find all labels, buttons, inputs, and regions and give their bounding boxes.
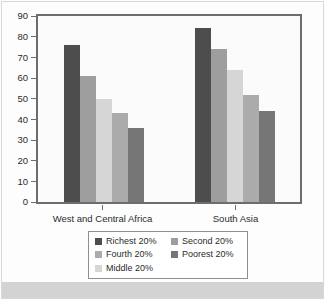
y-axis-tick-label: 20 (17, 156, 31, 166)
bar (96, 99, 112, 202)
x-axis-category-label: South Asia (213, 213, 258, 224)
y-axis-tick: 90 (17, 10, 36, 22)
y-axis-tick: 30 (17, 134, 36, 146)
bar (243, 95, 259, 202)
legend-grid: Richest 20%Second 20%Fourth 20%Poorest 2… (95, 236, 241, 274)
y-axis-tick-label: 60 (17, 73, 31, 83)
y-axis-tick: 0 (23, 196, 36, 208)
bars-layer (38, 16, 300, 202)
x-axis-tick-mark (102, 205, 103, 210)
legend-swatch (95, 251, 102, 258)
legend-item[interactable]: Richest 20% (95, 236, 165, 247)
y-axis-tick: 70 (17, 51, 36, 63)
bar (227, 70, 243, 202)
y-axis-tick: 60 (17, 72, 36, 84)
legend-swatch (95, 238, 102, 245)
x-axis-category-label: West and Central Africa (53, 213, 153, 224)
legend-swatch (171, 251, 178, 258)
y-axis: 9080706050403020100 (0, 14, 36, 204)
bar-group (195, 16, 275, 202)
chart-legend: Richest 20%Second 20%Fourth 20%Poorest 2… (88, 231, 248, 279)
legend-swatch (171, 238, 178, 245)
footer-band (2, 282, 323, 298)
legend-item[interactable]: Middle 20% (95, 263, 165, 274)
y-axis-tick-label: 0 (23, 197, 31, 207)
legend-item[interactable]: Poorest 20% (171, 249, 241, 260)
y-axis-tick: 20 (17, 155, 36, 167)
x-axis-category: South Asia (169, 205, 302, 225)
plot-area (36, 14, 302, 204)
legend-label: Poorest 20% (182, 249, 234, 260)
y-axis-tick: 80 (17, 31, 36, 43)
y-axis-tick-label: 10 (17, 177, 31, 187)
legend-item[interactable]: Fourth 20% (95, 249, 165, 260)
x-axis-tick-mark (235, 205, 236, 210)
bar (64, 45, 80, 202)
bar (128, 128, 144, 202)
y-axis-tick-label: 50 (17, 94, 31, 104)
y-axis-tick-label: 90 (17, 11, 31, 21)
legend-swatch (95, 265, 102, 272)
bar-group (64, 16, 144, 202)
bar (211, 49, 227, 202)
bar (195, 28, 211, 202)
bar (259, 111, 275, 202)
bar (80, 76, 96, 202)
legend-label: Richest 20% (106, 236, 157, 247)
y-axis-tick: 50 (17, 93, 36, 105)
y-axis-tick: 40 (17, 113, 36, 125)
x-axis-category: West and Central Africa (36, 205, 169, 225)
y-axis-tick-label: 40 (17, 115, 31, 125)
y-axis-tick-label: 80 (17, 32, 31, 42)
bar (112, 113, 128, 202)
y-axis-tick-label: 30 (17, 135, 31, 145)
legend-item[interactable]: Second 20% (171, 236, 241, 247)
x-axis: West and Central AfricaSouth Asia (36, 205, 302, 225)
legend-label: Middle 20% (106, 263, 153, 274)
y-axis-tick: 10 (17, 175, 36, 187)
legend-label: Second 20% (182, 236, 233, 247)
legend-label: Fourth 20% (106, 249, 153, 260)
y-axis-tick-label: 70 (17, 53, 31, 63)
chart-figure: 9080706050403020100 West and Central Afr… (0, 0, 325, 300)
